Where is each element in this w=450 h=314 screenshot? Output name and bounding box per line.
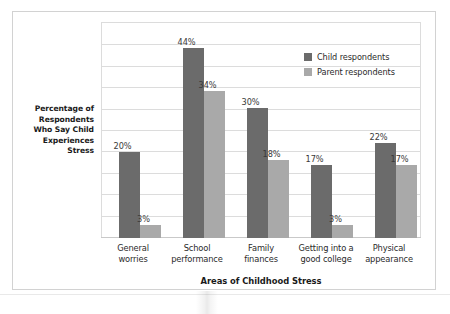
y-axis-title-line-4: Experiences — [16, 136, 94, 147]
bar-value-label: 22% — [361, 132, 396, 142]
page-edge-line — [0, 294, 450, 295]
legend-item-parent[interactable]: Parent respondents — [304, 66, 416, 78]
page-fold-shadow — [196, 291, 218, 314]
legend-label-parent: Parent respondents — [317, 67, 395, 77]
bar-value-label: 17% — [297, 154, 332, 164]
x-tick-label-general-worries: General worries — [101, 243, 165, 265]
bar-parent-3[interactable] — [268, 160, 289, 238]
x-tick-label-school-performance: School performance — [165, 243, 229, 265]
bar-child-2[interactable] — [183, 48, 204, 238]
legend-swatch-parent-icon — [304, 68, 312, 76]
bar-parent-2[interactable] — [204, 91, 225, 238]
bar-value-label: 34% — [190, 80, 225, 90]
gridline — [102, 44, 420, 45]
bar-parent-4[interactable] — [332, 225, 353, 238]
y-axis-title-line-5: Stress — [16, 146, 94, 157]
legend-swatch-child-icon — [304, 53, 312, 61]
bar-value-label: 20% — [105, 141, 140, 151]
x-tick-label-physical-appearance: Physical appearance — [357, 243, 421, 265]
bar-value-label: 30% — [233, 97, 268, 107]
bar-value-label: 3% — [318, 214, 353, 224]
x-tick-line-2: good college — [291, 254, 361, 265]
bar-parent-1[interactable] — [140, 225, 161, 238]
bar-child-1[interactable] — [119, 152, 140, 238]
x-tick-label-family-finances: Family finances — [229, 243, 293, 265]
bar-value-label: 17% — [382, 154, 417, 164]
x-tick-line-1: Getting into a — [291, 243, 361, 254]
bar-value-label: 44% — [169, 37, 204, 47]
chart-legend: Child respondents Parent respondents — [304, 51, 416, 81]
x-tick-line-1: Family — [229, 243, 293, 254]
legend-item-child[interactable]: Child respondents — [304, 51, 416, 63]
x-tick-line-2: worries — [101, 254, 165, 265]
y-axis-title-line-3: Who Say Child — [16, 125, 94, 136]
bar-parent-5[interactable] — [396, 165, 417, 238]
x-tick-line-1: School — [165, 243, 229, 254]
x-tick-label-getting-into-a-good-college: Getting into a good college — [291, 243, 361, 265]
bar-child-4[interactable] — [311, 165, 332, 238]
bar-child-3[interactable] — [247, 108, 268, 238]
bar-value-label: 18% — [254, 149, 289, 159]
y-axis-title-line-1: Percentage of — [16, 104, 94, 115]
gridline — [102, 87, 420, 88]
x-tick-line-2: appearance — [357, 254, 421, 265]
x-tick-line-1: Physical — [357, 243, 421, 254]
x-tick-line-2: finances — [229, 254, 293, 265]
legend-label-child: Child respondents — [317, 52, 389, 62]
y-axis-title: Percentage of Respondents Who Say Child … — [16, 104, 94, 157]
bar-value-label: 3% — [126, 214, 161, 224]
x-axis-title: Areas of Childhood Stress — [101, 276, 421, 286]
x-tick-line-1: General — [101, 243, 165, 254]
y-axis-title-line-2: Respondents — [16, 115, 94, 126]
x-tick-line-2: performance — [165, 254, 229, 265]
